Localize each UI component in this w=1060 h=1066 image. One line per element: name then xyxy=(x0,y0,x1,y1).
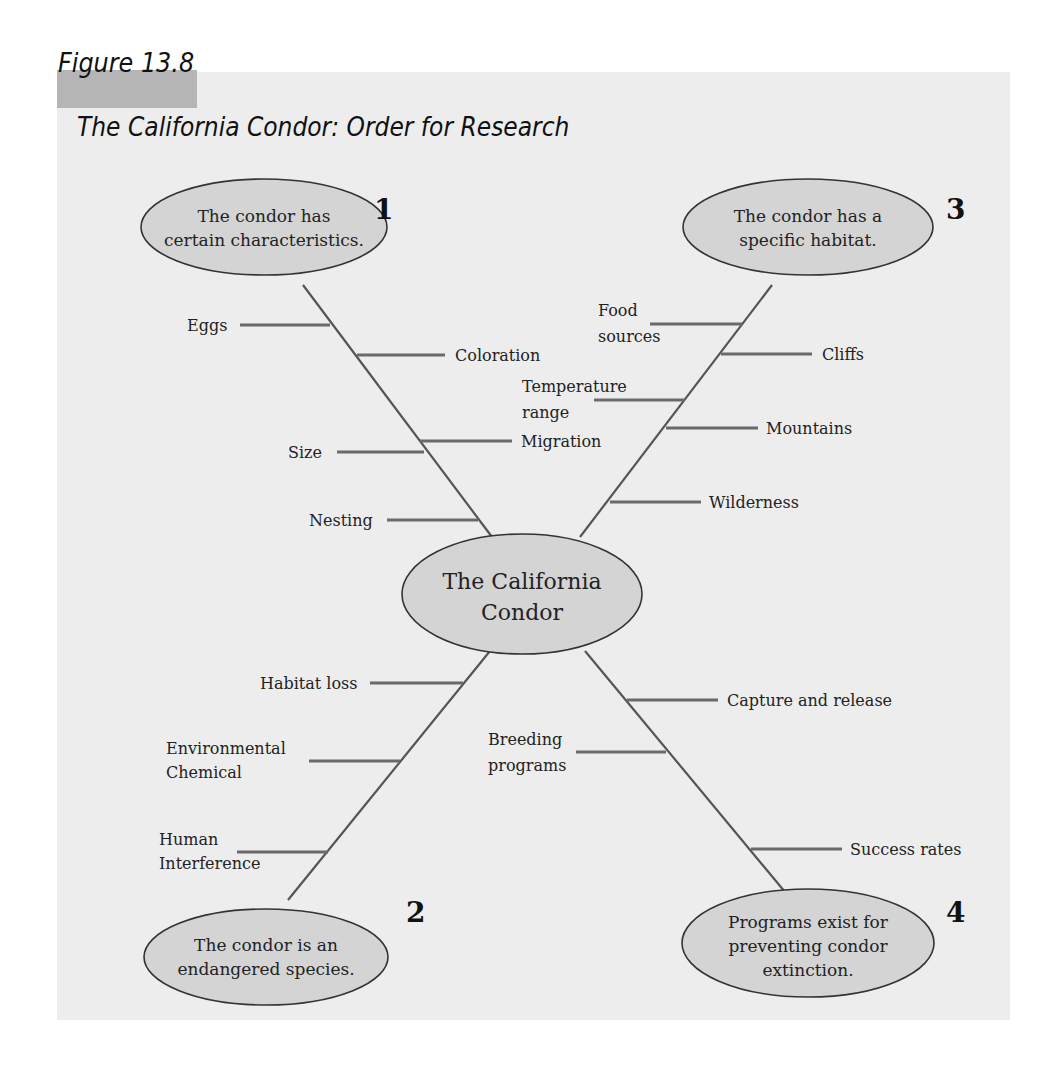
branch-breeding-1: Breeding xyxy=(488,730,562,749)
node-3-ellipse xyxy=(683,179,933,275)
node-2-line-1: The condor is an xyxy=(194,935,338,955)
branch-environmental-1: Environmental xyxy=(166,739,286,758)
node-4-line-1: Programs exist for xyxy=(728,912,889,932)
center-ellipse xyxy=(402,534,642,654)
branch-human-2: Interference xyxy=(159,854,260,873)
node-3-line-1: The condor has a xyxy=(734,206,882,226)
branch-nesting: Nesting xyxy=(309,511,373,530)
branch-environmental-2: Chemical xyxy=(166,763,242,782)
branch-temperature-2: range xyxy=(522,403,569,422)
node-4-line-2: preventing condor xyxy=(728,936,888,956)
branch-mountains: Mountains xyxy=(766,419,852,438)
branch-cliffs: Cliffs xyxy=(822,345,864,364)
branch-breeding-2: programs xyxy=(488,756,566,775)
node-3-line-2: specific habitat. xyxy=(739,230,877,250)
node-1-line-2: certain characteristics. xyxy=(164,230,364,250)
branch-food-sources-2: sources xyxy=(598,327,660,346)
fishbone-diagram: The condor has certain characteristics. … xyxy=(0,0,1060,1066)
branch-wilderness: Wilderness xyxy=(709,493,799,512)
node-2-number: 2 xyxy=(406,896,425,929)
branch-temperature-1: Temperature xyxy=(522,377,627,396)
branch-coloration: Coloration xyxy=(455,346,540,365)
node-2-line-2: endangered species. xyxy=(177,959,354,979)
branch-food-sources-1: Food xyxy=(598,301,638,320)
branch-success-rates: Success rates xyxy=(850,840,961,859)
center-line-1: The California xyxy=(442,569,601,594)
node-4-number: 4 xyxy=(946,896,965,929)
branch-human-1: Human xyxy=(159,830,218,849)
node-2-ellipse xyxy=(144,909,388,1005)
node-1-ellipse xyxy=(141,179,387,275)
spine-1 xyxy=(303,285,492,537)
branch-capture-release: Capture and release xyxy=(727,691,892,710)
node-3-number: 3 xyxy=(946,193,965,226)
node-1-number: 1 xyxy=(374,193,393,226)
branch-migration: Migration xyxy=(521,432,601,451)
center-line-2: Condor xyxy=(481,600,564,625)
spine-4 xyxy=(585,651,790,898)
node-4-line-3: extinction. xyxy=(762,960,853,980)
branch-size: Size xyxy=(288,443,322,462)
node-1-line-1: The condor has xyxy=(198,206,331,226)
branch-eggs: Eggs xyxy=(187,316,227,335)
branch-habitat-loss: Habitat loss xyxy=(260,674,358,693)
